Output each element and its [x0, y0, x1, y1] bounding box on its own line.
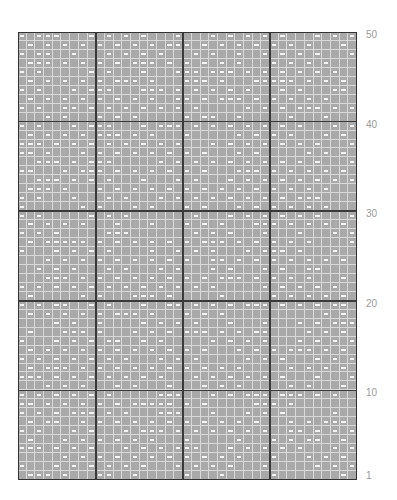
- knit-cell: [227, 283, 236, 292]
- knit-cell: [314, 59, 323, 68]
- purl-cell: [44, 131, 53, 140]
- knit-cell: [96, 229, 105, 238]
- purl-cell: [148, 184, 157, 193]
- purl-cell: [270, 41, 279, 50]
- knit-cell: [166, 444, 175, 453]
- purl-cell: [44, 346, 53, 355]
- knit-cell: [157, 238, 166, 247]
- knit-cell: [209, 319, 218, 328]
- knit-cell: [331, 265, 340, 274]
- purl-cell: [18, 104, 27, 113]
- knit-cell: [157, 77, 166, 86]
- knit-cell: [122, 346, 131, 355]
- knit-cell: [348, 390, 357, 399]
- purl-cell: [96, 310, 105, 319]
- knit-cell: [296, 220, 305, 229]
- purl-cell: [348, 444, 357, 453]
- knit-cell: [218, 355, 227, 364]
- knit-cell: [114, 50, 123, 59]
- purl-cell: [53, 462, 62, 471]
- knit-cell: [340, 283, 349, 292]
- purl-cell: [209, 32, 218, 41]
- knit-cell: [70, 148, 79, 157]
- knit-cell: [131, 122, 140, 131]
- purl-cell: [96, 417, 105, 426]
- knit-cell: [105, 399, 114, 408]
- purl-cell: [322, 346, 331, 355]
- purl-cell: [287, 399, 296, 408]
- knit-cell: [122, 301, 131, 310]
- knit-cell: [148, 372, 157, 381]
- knit-cell: [157, 301, 166, 310]
- purl-cell: [296, 157, 305, 166]
- purl-cell: [44, 41, 53, 50]
- knit-cell: [105, 435, 114, 444]
- purl-cell: [218, 95, 227, 104]
- purl-cell: [340, 220, 349, 229]
- knit-cell: [44, 328, 53, 337]
- knit-cell: [44, 435, 53, 444]
- purl-cell: [322, 310, 331, 319]
- purl-cell: [218, 256, 227, 265]
- purl-cell: [105, 408, 114, 417]
- purl-cell: [296, 140, 305, 149]
- knit-cell: [279, 95, 288, 104]
- purl-cell: [166, 41, 175, 50]
- purl-cell: [53, 238, 62, 247]
- knit-cell: [53, 310, 62, 319]
- knit-cell: [96, 247, 105, 256]
- knit-cell: [287, 86, 296, 95]
- knit-cell: [305, 426, 314, 435]
- knit-cell: [44, 229, 53, 238]
- knit-cell: [296, 77, 305, 86]
- knit-cell: [201, 229, 210, 238]
- purl-cell: [114, 184, 123, 193]
- knit-cell: [105, 444, 114, 453]
- purl-cell: [201, 417, 210, 426]
- knit-cell: [218, 319, 227, 328]
- purl-cell: [331, 247, 340, 256]
- knit-cell: [105, 310, 114, 319]
- knit-cell: [201, 283, 210, 292]
- purl-cell: [209, 86, 218, 95]
- purl-cell: [227, 372, 236, 381]
- knit-cell: [270, 86, 279, 95]
- purl-cell: [70, 140, 79, 149]
- purl-cell: [157, 319, 166, 328]
- purl-cell: [305, 166, 314, 175]
- knit-cell: [305, 131, 314, 140]
- purl-cell: [105, 372, 114, 381]
- knit-cell: [61, 444, 70, 453]
- knit-cell: [140, 355, 149, 364]
- knit-cell: [35, 247, 44, 256]
- purl-cell: [35, 184, 44, 193]
- purl-cell: [183, 77, 192, 86]
- row-label-20: 20: [366, 299, 377, 309]
- knit-cell: [244, 310, 253, 319]
- knit-cell: [218, 247, 227, 256]
- knit-cell: [27, 50, 36, 59]
- purl-cell: [331, 337, 340, 346]
- purl-cell: [244, 166, 253, 175]
- knit-cell: [44, 104, 53, 113]
- purl-cell: [340, 274, 349, 283]
- knit-cell: [209, 104, 218, 113]
- knit-cell: [114, 301, 123, 310]
- knit-cell: [218, 86, 227, 95]
- knit-cell: [305, 247, 314, 256]
- purl-cell: [140, 32, 149, 41]
- purl-cell: [131, 364, 140, 373]
- purl-cell: [209, 247, 218, 256]
- purl-cell: [253, 131, 262, 140]
- purl-cell: [192, 104, 201, 113]
- purl-cell: [253, 41, 262, 50]
- knit-cell: [244, 59, 253, 68]
- knit-cell: [122, 148, 131, 157]
- purl-cell: [18, 426, 27, 435]
- knit-cell: [27, 32, 36, 41]
- knit-cell: [348, 328, 357, 337]
- knit-cell: [287, 355, 296, 364]
- knit-cell: [331, 364, 340, 373]
- knit-cell: [183, 301, 192, 310]
- knit-cell: [253, 32, 262, 41]
